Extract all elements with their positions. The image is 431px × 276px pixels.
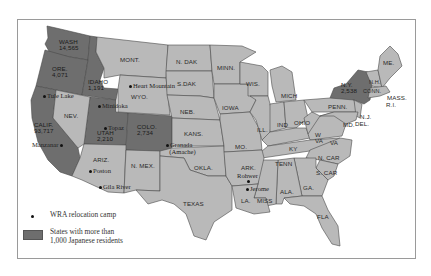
camp-jerome: Jerome xyxy=(246,186,269,193)
label-pennsylvania: PENN. xyxy=(328,104,347,110)
label-michigan: MICH xyxy=(281,93,297,99)
camp-poston: Poston xyxy=(89,168,111,175)
label-new-york: N.Y.2,538 xyxy=(341,82,357,94)
camp-dot-icon xyxy=(98,105,101,108)
label-kentucky: KY xyxy=(289,146,297,152)
camp-dot-icon xyxy=(166,144,169,147)
label-indiana: IND xyxy=(277,122,288,128)
camp-dot-icon xyxy=(246,188,249,191)
label-alabama: ALA. xyxy=(280,189,294,195)
label-wyoming: WYO. xyxy=(131,94,148,100)
label-missouri: MO. xyxy=(235,144,247,150)
label-oklahoma: OKLA. xyxy=(194,165,213,171)
label-louisiana: LA. xyxy=(241,198,251,204)
label-west-virginia: W VA xyxy=(315,132,327,144)
label-illinois: ILL. xyxy=(257,127,268,133)
label-nevada: NEV. xyxy=(64,113,78,119)
camp-manzanar: Manzanar xyxy=(32,142,64,149)
camp-dot-icon xyxy=(89,170,92,173)
label-iowa: IOWA xyxy=(222,105,239,111)
label-texas: TEXAS xyxy=(183,201,204,207)
label-rhode-island: R.I. xyxy=(386,102,396,108)
label-california: CALIF.93,717 xyxy=(34,122,54,134)
legend-camp-dot-icon xyxy=(31,215,34,218)
label-connecticut: CONN. xyxy=(363,89,381,95)
label-virginia: VA xyxy=(330,140,338,146)
label-tennessee: TENN xyxy=(275,161,292,167)
legend-shaded-label: States with more than1,000 Japanese resi… xyxy=(50,228,123,246)
label-ohio: OHIO xyxy=(294,120,310,126)
label-north-dakota: N. DAK xyxy=(176,59,197,65)
label-florida: FLA xyxy=(317,214,329,220)
camp-topaz: Topaz xyxy=(104,125,124,132)
camp-granada-amache: Granada (Amache) xyxy=(166,142,196,156)
camp-dot-icon-rohwer xyxy=(247,180,250,183)
label-wisconsin: WIS. xyxy=(246,81,260,87)
label-colorado: COLO.2,734 xyxy=(137,124,157,136)
label-north-carolina: N. CAR xyxy=(318,155,340,161)
camp-rohwer: Rohwer xyxy=(237,173,258,180)
camp-tule-lake: Tule Lake xyxy=(43,93,74,100)
label-delaware: DEL. xyxy=(355,121,369,127)
label-georgia: GA. xyxy=(303,185,314,191)
camp-heart-mountain: Heart Mountain xyxy=(129,83,175,90)
camp-dot-icon xyxy=(43,95,46,98)
label-maine: ME. xyxy=(383,60,394,66)
label-new-mexico: N. MEX. xyxy=(131,163,155,169)
label-kansas: KANS. xyxy=(184,131,203,137)
label-south-dakota: S.DAK xyxy=(177,81,196,87)
label-arizona: ARIZ. xyxy=(93,157,109,163)
label-utah: UTAH2,210 xyxy=(97,130,114,142)
label-oregon: ORE.4,071 xyxy=(52,66,68,78)
state-florida xyxy=(284,196,340,246)
label-minnesota: MINN. xyxy=(217,65,235,71)
label-montana: MONT. xyxy=(120,57,140,63)
camp-gila-river: Gila River xyxy=(99,184,131,191)
label-south-carolina: S. CAR xyxy=(316,170,337,176)
state-maine xyxy=(378,46,402,88)
label-washington: WASH14,565 xyxy=(59,39,79,51)
label-arkansas: ARK. xyxy=(241,165,256,171)
label-maryland: MD. xyxy=(343,122,355,128)
camp-dot-icon xyxy=(99,186,102,189)
camp-minidoka: Minidoka xyxy=(98,103,128,110)
label-new-hampshire: N.H. xyxy=(369,80,380,86)
camp-dot-icon xyxy=(104,127,107,130)
label-idaho: IDAHO1,191 xyxy=(88,79,108,91)
legend-shaded-swatch xyxy=(23,230,43,240)
camp-dot-icon xyxy=(60,144,63,147)
label-nebraska: NEB. xyxy=(180,109,195,115)
camp-dot-icon xyxy=(129,85,132,88)
legend-camp-label: WRA relocation camp xyxy=(50,211,116,220)
label-mississippi: MISS xyxy=(257,198,273,204)
